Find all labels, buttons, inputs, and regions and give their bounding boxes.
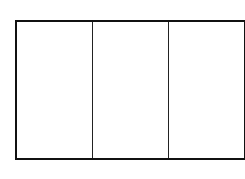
section-3	[168, 22, 244, 158]
section-1	[17, 22, 92, 158]
divided-rectangle	[15, 20, 245, 160]
section-2	[92, 22, 168, 158]
